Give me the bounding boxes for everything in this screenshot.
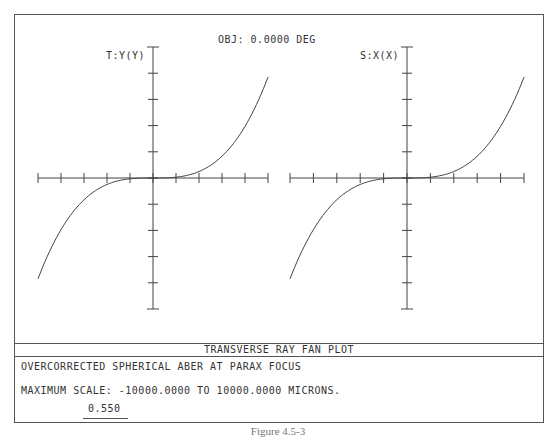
tangential-plot [38,47,268,309]
sagittal-plot [290,47,524,309]
description-text: OVERCORRECTED SPHERICAL ABER AT PARAX FO… [21,361,301,372]
tangential-axis-label: T:Y(Y) [106,50,145,61]
sagittal-axis-label: S:X(X) [360,50,399,61]
ray-fan-plots [0,0,556,440]
scale-text: MAXIMUM SCALE: -10000.0000 TO 10000.0000… [21,385,341,396]
object-angle-label: OBJ: 0.0000 DEG [218,34,316,45]
plot-title: TRANSVERSE RAY FAN PLOT [14,343,544,357]
wavelength-line-sample [83,418,128,419]
wavelength-label: 0.550 [88,403,121,414]
figure-caption: Figure 4.5-3 [0,425,556,437]
